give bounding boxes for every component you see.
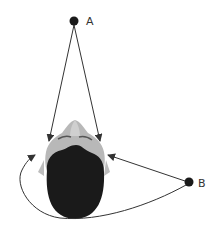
point-a-label: A: [86, 15, 94, 28]
point-a-dot: [70, 17, 79, 26]
hair: [47, 145, 104, 219]
arrow-b-to-right-ear: [108, 155, 185, 181]
right-ear: [104, 160, 110, 176]
point-b-dot: [185, 178, 194, 187]
left-ear: [38, 160, 44, 176]
point-b-label: B: [198, 177, 206, 190]
diagram-canvas: A B: [0, 0, 218, 231]
head: [38, 120, 110, 219]
